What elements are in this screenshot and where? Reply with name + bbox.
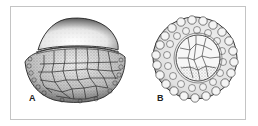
figure-illustration [0, 0, 258, 126]
panel-b-drawing [152, 16, 238, 102]
panel-a-drawing [25, 18, 125, 103]
panel-label-a: A [29, 94, 36, 103]
panel-label-b: B [157, 94, 164, 103]
